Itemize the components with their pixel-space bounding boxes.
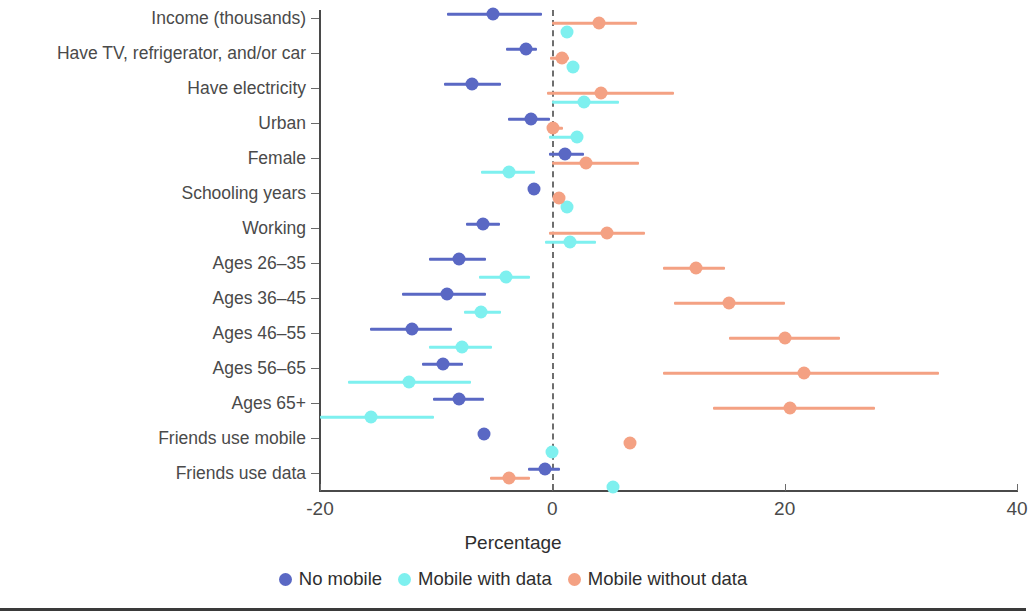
data-point[interactable] xyxy=(580,157,593,170)
data-point[interactable] xyxy=(475,306,488,319)
legend-label: Mobile without data xyxy=(588,568,747,590)
data-point[interactable] xyxy=(365,411,378,424)
data-point[interactable] xyxy=(778,332,791,345)
y-axis-tick xyxy=(311,298,319,299)
data-point[interactable] xyxy=(798,367,811,380)
y-axis-tick xyxy=(311,123,319,124)
legend-label: Mobile with data xyxy=(418,568,552,590)
data-point[interactable] xyxy=(624,437,637,450)
y-axis-tick xyxy=(311,228,319,229)
data-point[interactable] xyxy=(546,446,559,459)
y-axis-tick xyxy=(311,263,319,264)
data-point[interactable] xyxy=(405,323,418,336)
data-point[interactable] xyxy=(539,463,552,476)
data-point[interactable] xyxy=(561,26,574,39)
chart-legend: No mobileMobile with dataMobile without … xyxy=(0,568,1026,590)
dot-marker-icon xyxy=(398,573,411,586)
zero-reference-line xyxy=(552,10,554,490)
data-point[interactable] xyxy=(592,17,605,30)
data-point[interactable] xyxy=(525,113,538,126)
data-point[interactable] xyxy=(453,253,466,266)
y-axis-label: Have electricity xyxy=(187,78,306,99)
data-point[interactable] xyxy=(440,288,453,301)
y-axis-label: Ages 56–65 xyxy=(213,358,306,379)
x-axis-tick xyxy=(1017,484,1018,491)
y-axis-label: Working xyxy=(242,218,306,239)
x-axis-line xyxy=(319,490,1018,492)
data-point[interactable] xyxy=(503,472,516,485)
data-point[interactable] xyxy=(453,393,466,406)
data-point[interactable] xyxy=(499,271,512,284)
y-axis-label: Ages 65+ xyxy=(232,393,306,414)
y-axis-tick xyxy=(311,158,319,159)
y-axis-tick xyxy=(311,368,319,369)
data-point[interactable] xyxy=(690,262,703,275)
y-axis-tick xyxy=(311,193,319,194)
data-point[interactable] xyxy=(437,358,450,371)
legend-label: No mobile xyxy=(299,568,382,590)
x-axis-title: Percentage xyxy=(0,532,1026,554)
x-axis-tick-label: 20 xyxy=(774,498,795,520)
x-axis-tick-label: 40 xyxy=(1006,498,1027,520)
legend-item[interactable]: No mobile xyxy=(279,568,382,590)
y-axis-label: Income (thousands) xyxy=(151,8,306,29)
y-axis-label: Ages 36–45 xyxy=(213,288,306,309)
y-axis-tick xyxy=(311,18,319,19)
data-point[interactable] xyxy=(784,402,797,415)
y-axis-tick xyxy=(311,333,319,334)
x-axis-tick-label: -20 xyxy=(306,498,333,520)
data-point[interactable] xyxy=(595,87,608,100)
data-point[interactable] xyxy=(476,218,489,231)
data-point[interactable] xyxy=(578,96,591,109)
data-point[interactable] xyxy=(567,61,580,74)
y-axis-label: Ages 26–35 xyxy=(213,253,306,274)
data-point[interactable] xyxy=(527,183,540,196)
data-point[interactable] xyxy=(466,78,479,91)
data-point[interactable] xyxy=(722,297,735,310)
data-point[interactable] xyxy=(559,148,572,161)
data-point[interactable] xyxy=(606,481,619,494)
y-axis-label: Friends use data xyxy=(176,463,306,484)
x-axis-tick-label: 0 xyxy=(547,498,558,520)
dot-marker-icon xyxy=(568,573,581,586)
y-axis-label: Have TV, refrigerator, and/or car xyxy=(57,43,306,64)
y-axis-label: Schooling years xyxy=(181,183,306,204)
y-axis-tick xyxy=(311,53,319,54)
data-point[interactable] xyxy=(600,227,613,240)
data-point[interactable] xyxy=(519,43,532,56)
error-bar xyxy=(552,162,639,165)
data-point[interactable] xyxy=(477,428,490,441)
data-point[interactable] xyxy=(455,341,468,354)
data-point[interactable] xyxy=(403,376,416,389)
data-point[interactable] xyxy=(487,8,500,21)
legend-item[interactable]: Mobile without data xyxy=(568,568,747,590)
y-axis-label: Friends use mobile xyxy=(158,428,306,449)
data-point[interactable] xyxy=(570,131,583,144)
error-bar xyxy=(549,232,645,235)
y-axis-tick xyxy=(311,403,319,404)
error-bar xyxy=(547,92,675,95)
y-axis-label: Female xyxy=(248,148,306,169)
legend-item[interactable]: Mobile with data xyxy=(398,568,552,590)
data-point[interactable] xyxy=(547,122,560,135)
y-axis-tick xyxy=(311,438,319,439)
data-point[interactable] xyxy=(555,52,568,65)
x-axis-tick xyxy=(552,484,553,491)
y-axis-label: Ages 46–55 xyxy=(213,323,306,344)
data-point[interactable] xyxy=(553,192,566,205)
x-axis-tick xyxy=(785,484,786,491)
data-point[interactable] xyxy=(503,166,516,179)
x-axis-tick xyxy=(320,484,321,491)
y-axis-label: Urban xyxy=(258,113,306,134)
y-axis-tick xyxy=(311,88,319,89)
dot-marker-icon xyxy=(279,573,292,586)
y-axis-tick xyxy=(311,473,319,474)
data-point[interactable] xyxy=(563,236,576,249)
